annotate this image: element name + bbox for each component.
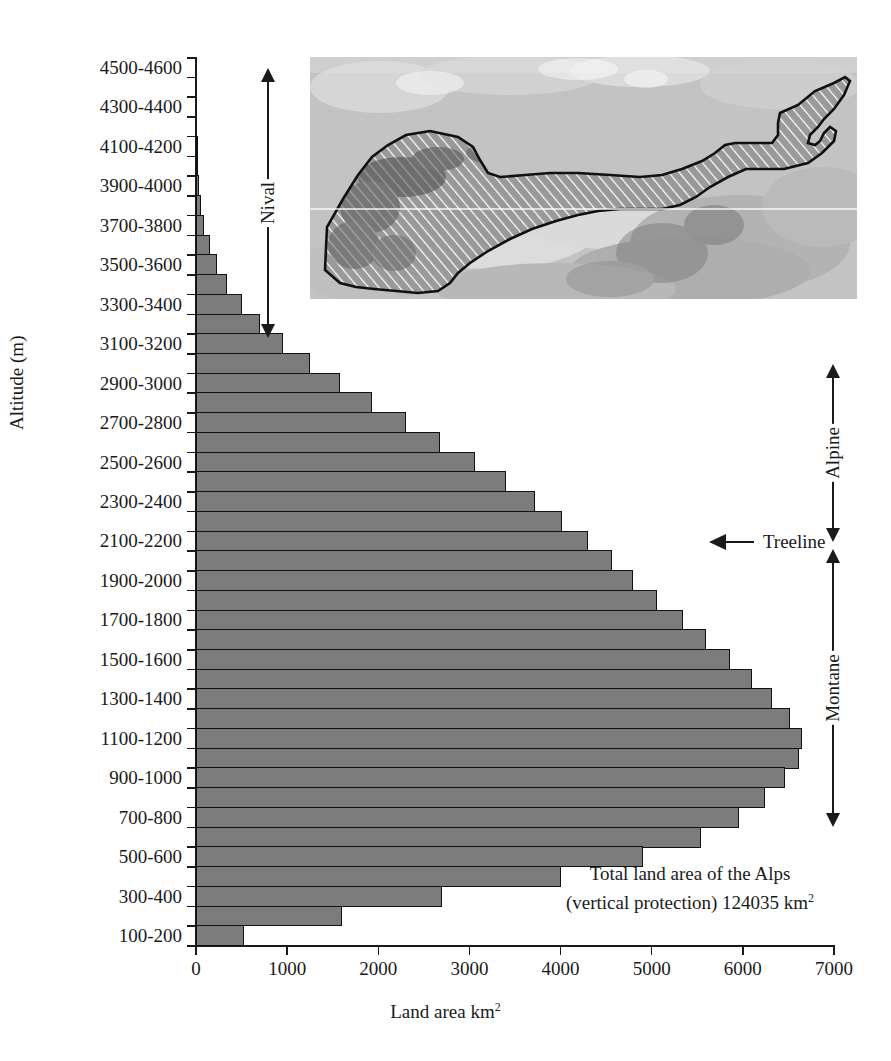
y-axis-tick-label: 3500-3600 [100, 255, 182, 274]
y-axis-tick [187, 570, 196, 572]
y-axis-tick-label: 3100-3200 [100, 334, 182, 353]
arrow-left-icon [709, 534, 726, 550]
x-axis-tick [195, 945, 197, 955]
x-axis-tick-label: 1000 [268, 958, 306, 980]
y-axis-tick-label: 2900-3000 [100, 373, 182, 392]
y-axis-tick [187, 392, 196, 394]
bar [196, 392, 372, 413]
x-axis-tick-label: 6000 [724, 958, 762, 980]
bar [196, 886, 442, 907]
bar [196, 610, 683, 631]
x-axis-tick-label: 0 [191, 958, 201, 980]
y-axis-tick [187, 550, 196, 552]
total-area-note-line-1: Total land area of the Alps [525, 860, 855, 889]
y-axis-tick [187, 491, 196, 493]
y-axis-tick [187, 649, 196, 651]
y-axis-tick [187, 827, 196, 829]
y-axis-tick [187, 471, 196, 473]
bar [196, 649, 730, 670]
y-axis-tick-label: 4500-4600 [100, 57, 182, 76]
y-axis-tick-label: 2300-2400 [100, 492, 182, 511]
treeline-annotation: Treeline [709, 531, 826, 553]
arrow-down-icon [826, 528, 840, 542]
y-axis-tick-label: 300-400 [119, 886, 182, 905]
y-axis-tick-label: 4100-4200 [100, 136, 182, 155]
y-axis-tick [187, 629, 196, 631]
x-axis-tick-label: 2000 [359, 958, 397, 980]
bar [196, 254, 217, 275]
y-axis-tick [187, 353, 196, 355]
x-axis-tick [742, 945, 744, 955]
y-axis-tick-label: 100-200 [119, 926, 182, 945]
y-axis-tick [187, 294, 196, 296]
bar [196, 274, 227, 295]
bar [196, 688, 772, 709]
bar [196, 471, 506, 492]
zone-bracket-alpine: Alpine [805, 364, 861, 542]
y-axis-title: Altitude (m) [6, 336, 28, 430]
y-axis-tick [187, 373, 196, 375]
bar [196, 412, 406, 433]
bar [196, 807, 739, 828]
y-axis-tick-label: 1300-1400 [100, 689, 182, 708]
y-axis-tick [187, 906, 196, 908]
zone-bracket-montane: Montane [805, 549, 861, 827]
zone-label-montane: Montane [816, 651, 850, 725]
y-axis-tick [187, 511, 196, 513]
x-axis-line [195, 945, 835, 947]
y-axis-tick [187, 136, 196, 138]
x-axis-title-superscript: 2 [495, 1000, 501, 1014]
y-axis-tick [187, 807, 196, 809]
bar [196, 748, 799, 769]
bar [196, 136, 198, 157]
bar [196, 728, 802, 749]
y-axis-tick-label: 3700-3800 [100, 215, 182, 234]
y-axis-tick-label: 3900-4000 [100, 176, 182, 195]
y-axis-tick [187, 748, 196, 750]
y-axis-tick-label: 1900-2000 [100, 570, 182, 589]
bar [196, 590, 657, 611]
y-axis-tick [187, 57, 196, 59]
zone-label-nival: Nival [251, 179, 285, 227]
x-axis-tick [286, 945, 288, 955]
y-axis-tick-label: 1500-1600 [100, 649, 182, 668]
bar [196, 669, 752, 690]
y-axis-tick [187, 274, 196, 276]
y-axis-tick-label: 2500-2600 [100, 452, 182, 471]
y-axis-tick [187, 156, 196, 158]
y-axis-tick [187, 254, 196, 256]
y-axis-tick-label: 4300-4400 [100, 97, 182, 116]
arrow-down-icon [826, 813, 840, 827]
bar [196, 827, 701, 848]
y-axis-tick [187, 314, 196, 316]
total-area-note: Total land area of the Alps (vertical pr… [525, 860, 855, 917]
bar [196, 215, 204, 236]
bar [196, 452, 475, 473]
y-axis-tick [187, 235, 196, 237]
chart-figure: Altitude (m) 4500-46004300-44004100-4200… [0, 0, 891, 1061]
y-axis-tick [187, 452, 196, 454]
bar [196, 353, 310, 374]
y-axis-tick-label: 2700-2800 [100, 413, 182, 432]
bar [196, 925, 244, 946]
bar [196, 195, 201, 216]
y-axis-tick [187, 432, 196, 434]
bar [196, 531, 588, 552]
y-axis-tick-label: 700-800 [119, 807, 182, 826]
total-area-note-line-2-text: (vertical protection) 124035 km [566, 892, 808, 913]
bar [196, 866, 561, 887]
y-axis-tick [187, 175, 196, 177]
y-axis-tick [187, 846, 196, 848]
y-axis-tick [187, 590, 196, 592]
zone-label-alpine: Alpine [816, 424, 850, 482]
total-area-note-line-2: (vertical protection) 124035 km2 [525, 889, 855, 918]
y-axis-tick [187, 787, 196, 789]
bar [196, 373, 340, 394]
alps-map-svg [310, 57, 857, 299]
bar [196, 550, 612, 571]
x-axis-tick-label: 3000 [450, 958, 488, 980]
y-axis-tick-label: 1100-1200 [100, 728, 182, 747]
bar [196, 767, 785, 788]
x-axis-title: Land area km2 [0, 1000, 891, 1023]
inset-map-of-the-alps [310, 57, 857, 299]
